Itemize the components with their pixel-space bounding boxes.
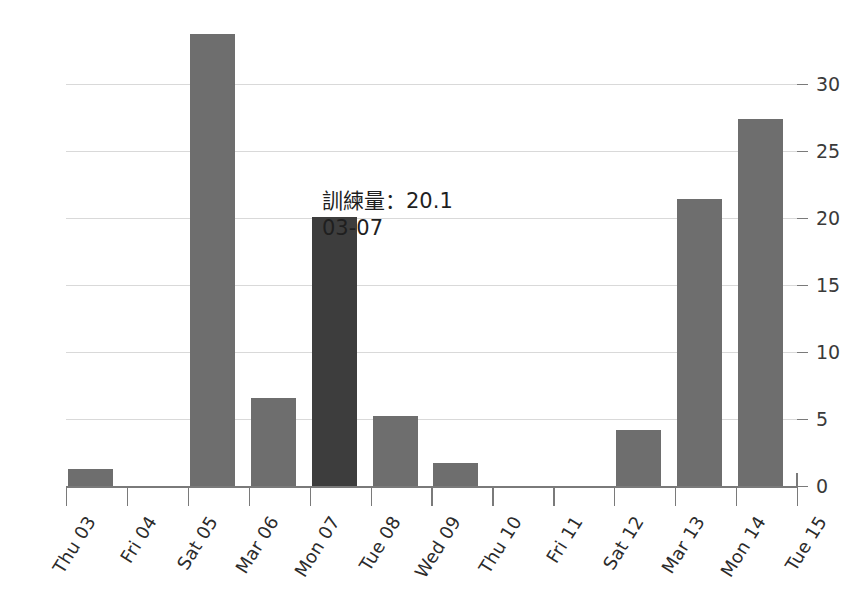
x-axis-tick-label: Thu 10	[475, 512, 527, 577]
bar-highlighted[interactable]	[312, 217, 357, 486]
x-axis-end-cap	[796, 473, 798, 487]
plot-area: 051015202530 Thu 03Fri 04Sat 05Mar 06Mon…	[0, 0, 866, 603]
y-axis-tick-label: 25	[816, 142, 840, 161]
y-axis-tick-mark	[797, 285, 808, 286]
bar[interactable]	[677, 199, 722, 486]
bar[interactable]	[68, 469, 113, 486]
y-axis-tick-mark	[797, 218, 808, 219]
tooltip: 訓練量：20.1 03-07	[322, 188, 453, 242]
y-axis-tick-mark	[797, 151, 808, 152]
gridline	[66, 84, 797, 85]
y-axis-tick-mark	[797, 419, 808, 420]
x-axis-tick-mark	[310, 487, 311, 506]
y-axis-tick-label: 10	[816, 343, 840, 362]
x-axis-tick-label: Mar 13	[657, 512, 709, 577]
y-axis-tick-label: 30	[816, 75, 840, 94]
tooltip-value-line: 訓練量：20.1	[322, 188, 453, 215]
x-axis-tick-mark	[492, 487, 493, 506]
x-axis-tick-label: Sat 12	[599, 512, 648, 573]
x-axis-tick-mark	[675, 487, 676, 506]
x-axis-tick-mark	[553, 487, 554, 506]
x-axis-tick-label: Mar 06	[231, 512, 283, 577]
x-axis-tick-label: Mon 07	[290, 512, 344, 581]
y-axis-tick-label: 5	[816, 410, 828, 429]
y-axis-tick-label: 20	[816, 209, 840, 228]
x-axis-tick-label: Fri 04	[116, 512, 161, 567]
x-axis-tick-mark	[797, 487, 798, 506]
x-axis-tick-label: Fri 11	[542, 512, 587, 567]
bar[interactable]	[373, 416, 418, 486]
x-axis-tick-mark	[431, 487, 432, 506]
y-axis-tick-label: 15	[816, 276, 840, 295]
x-axis-tick-mark	[127, 487, 128, 506]
x-axis-tick-label: Tue 15	[781, 512, 831, 575]
y-axis-tick-label: 0	[816, 477, 828, 496]
x-axis-tick-mark	[188, 487, 189, 506]
x-axis-tick-label: Mon 14	[716, 512, 770, 581]
x-axis-tick-label: Thu 03	[48, 512, 100, 577]
x-axis-tick-label: Wed 09	[411, 512, 465, 582]
tooltip-date-line: 03-07	[322, 215, 453, 242]
y-axis-tick-mark	[797, 352, 808, 353]
x-axis-tick-mark	[614, 487, 615, 506]
bar[interactable]	[738, 119, 783, 486]
x-axis-tick-label: Sat 05	[172, 512, 221, 573]
y-axis-tick-mark	[797, 486, 808, 487]
x-axis-tick-mark	[736, 487, 737, 506]
x-axis-tick-mark	[249, 487, 250, 506]
bar[interactable]	[251, 398, 296, 486]
gridline	[66, 151, 797, 152]
y-axis-tick-mark	[797, 84, 808, 85]
bar[interactable]	[616, 430, 661, 486]
x-axis-tick-label: Tue 08	[354, 512, 404, 575]
bar[interactable]	[190, 34, 235, 486]
x-axis-tick-mark	[66, 487, 67, 506]
x-axis-tick-mark	[371, 487, 372, 506]
bar-chart: 051015202530 Thu 03Fri 04Sat 05Mar 06Mon…	[0, 0, 866, 603]
bar[interactable]	[433, 463, 478, 486]
